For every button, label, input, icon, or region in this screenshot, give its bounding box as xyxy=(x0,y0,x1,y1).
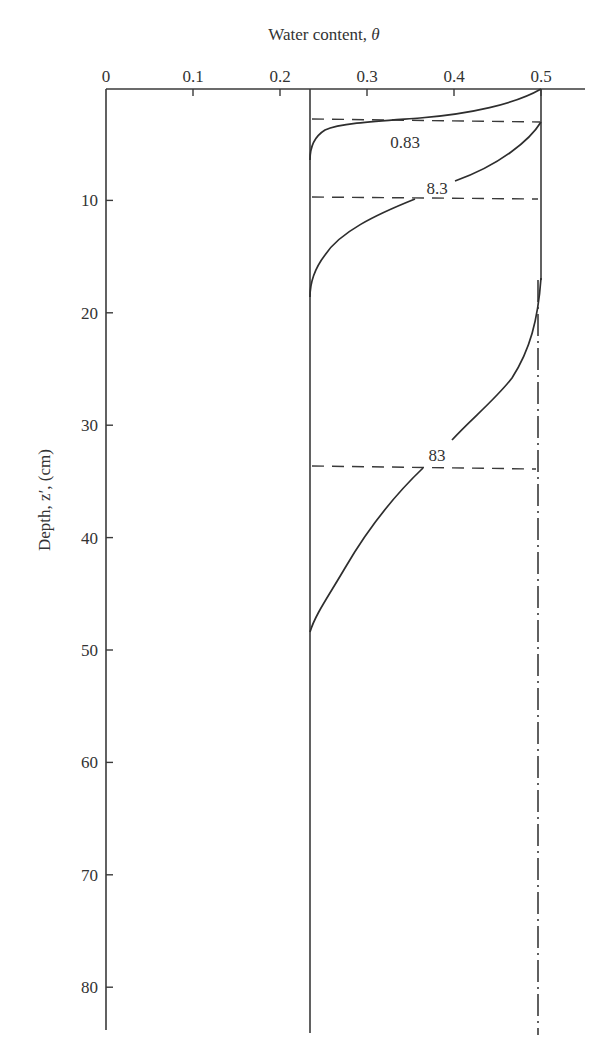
reference-lines xyxy=(310,89,541,1035)
wetting-front-83 xyxy=(312,466,536,469)
wetting-front-8.3 xyxy=(312,197,538,199)
y-tick-label: 20 xyxy=(81,304,98,323)
curve-label-83: 83 xyxy=(429,446,446,465)
x-tick-label: 0 xyxy=(102,67,111,86)
x-axis-title: Water content, θ xyxy=(268,25,379,44)
curve-label-0.83: 0.83 xyxy=(390,133,420,152)
x-axis-ticks: 00.10.20.30.40.5 xyxy=(102,67,552,96)
y-tick-label: 30 xyxy=(81,416,98,435)
wetting-front-0.83 xyxy=(312,119,540,122)
curve-label-8.3: 8.3 xyxy=(426,179,447,198)
y-tick-label: 60 xyxy=(81,753,98,772)
x-tick-label: 0.1 xyxy=(182,67,203,86)
y-tick-label: 50 xyxy=(81,641,98,660)
x-tick-label: 0.4 xyxy=(443,67,465,86)
y-axis-ticks: 1020304050607080 xyxy=(81,191,113,997)
curve-0.83 xyxy=(310,89,541,160)
wetting-front-lines xyxy=(312,119,540,469)
y-tick-label: 80 xyxy=(81,978,98,997)
curve-labels: 0.83 8.3 83 xyxy=(390,133,448,465)
y-tick-label: 70 xyxy=(81,866,98,885)
water-content-depth-chart: Water content, θ Depth, z′, (cm) 00.10.2… xyxy=(0,0,605,1059)
y-tick-label: 40 xyxy=(81,529,98,548)
y-axis-title: Depth, z′, (cm) xyxy=(35,449,54,551)
x-tick-label: 0.3 xyxy=(356,67,377,86)
axes xyxy=(106,89,585,1030)
y-tick-label: 10 xyxy=(81,191,98,210)
profile-curves xyxy=(310,89,541,632)
x-tick-label: 0.2 xyxy=(269,67,290,86)
curve-8.3 xyxy=(310,122,541,297)
x-tick-label: 0.5 xyxy=(530,67,551,86)
curve-83 xyxy=(310,278,541,632)
